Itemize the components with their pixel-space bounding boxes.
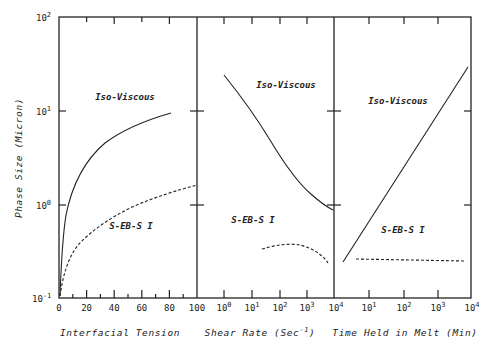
svg-text:104: 104 xyxy=(464,301,479,313)
panel3-x-ticks xyxy=(369,290,438,298)
svg-text:103: 103 xyxy=(299,301,314,313)
y-axis-labels: 102 101 100 10-1 xyxy=(32,11,51,304)
panel3-sebs-curve xyxy=(356,259,465,261)
panel3-anno-iso-viscous: Iso-Viscous xyxy=(368,96,428,106)
panel2-x-ticks xyxy=(224,290,307,298)
panel3-anno-sebs: S-EB-S I xyxy=(381,225,425,235)
svg-text:0: 0 xyxy=(56,303,61,313)
svg-text:102: 102 xyxy=(36,11,51,23)
panel1-anno-iso-viscous: Iso-Viscous xyxy=(95,92,155,102)
panel2-anno-iso-viscous: Iso-Viscous xyxy=(256,80,316,90)
top-ticks xyxy=(87,17,438,24)
svg-text:100: 100 xyxy=(36,199,51,211)
svg-text:101: 101 xyxy=(361,301,376,313)
svg-text:20: 20 xyxy=(81,303,92,313)
panel2-sebs-curve xyxy=(262,244,328,263)
svg-text:10-1: 10-1 xyxy=(32,292,51,304)
panel2-x-labels: 100 101 102 103 104 xyxy=(216,301,343,313)
y-axis-title: Phase Size (Micron) xyxy=(13,98,24,218)
panel2-anno-sebs: S-EB-S I xyxy=(231,215,275,225)
plot-frame xyxy=(59,17,471,298)
panel2-x-title: Shear Rate (Sec-1) xyxy=(205,326,316,338)
svg-text:60: 60 xyxy=(136,303,147,313)
panel1-iso-viscous-curve xyxy=(60,113,171,296)
panel2-iso-viscous-curve xyxy=(224,75,333,210)
panel1-x-labels: 0 20 40 60 80 100 xyxy=(56,303,205,313)
panel1-x-ticks xyxy=(73,290,183,298)
svg-text:40: 40 xyxy=(109,303,120,313)
svg-text:103: 103 xyxy=(430,301,445,313)
svg-text:80: 80 xyxy=(164,303,175,313)
svg-text:102: 102 xyxy=(396,301,411,313)
svg-text:101: 101 xyxy=(244,301,259,313)
svg-text:100: 100 xyxy=(189,303,205,313)
panel3-x-labels: 101 102 103 104 xyxy=(361,301,479,313)
svg-text:100: 100 xyxy=(216,301,231,313)
panel1-sebs-curve xyxy=(60,185,197,296)
svg-text:104: 104 xyxy=(328,301,343,313)
phase-size-chart: 102 101 100 10-1 Phase Size (Micron) 0 2… xyxy=(0,0,494,351)
svg-text:102: 102 xyxy=(272,301,287,313)
svg-text:101: 101 xyxy=(36,105,51,117)
panel3-x-title: Time Held in Melt (Min) xyxy=(332,327,477,338)
panel1-anno-sebs: S-EB-S I xyxy=(109,221,153,231)
panel1-x-title: Interfacial Tension xyxy=(60,327,180,338)
